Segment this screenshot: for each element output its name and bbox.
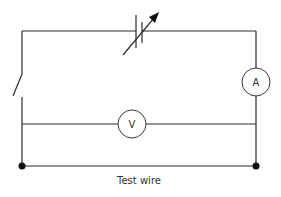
terminal-left (19, 163, 26, 170)
variable-cell-icon (123, 12, 159, 55)
ammeter: A (242, 68, 270, 96)
circuit-diagram: A V Test wire (0, 0, 281, 197)
test-wire-label: Test wire (116, 175, 161, 186)
open-switch-icon (13, 74, 22, 96)
ammeter-label: A (253, 77, 260, 88)
terminal-right (253, 163, 260, 170)
voltmeter: V (118, 110, 146, 138)
voltmeter-label: V (129, 119, 136, 130)
